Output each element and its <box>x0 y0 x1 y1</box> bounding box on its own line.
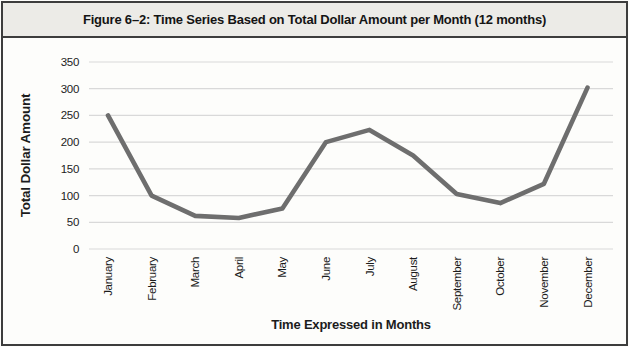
x-tick-label-august: August <box>407 256 419 291</box>
x-tick-label-december: December <box>582 257 594 308</box>
y-tick-label-50: 50 <box>67 216 79 228</box>
x-tick-label-march: March <box>189 257 201 287</box>
figure-title-bar: Figure 6–2: Time Series Based on Total D… <box>3 3 626 38</box>
x-tick-label-june: June <box>320 257 332 281</box>
x-tick-label-february: February <box>146 256 158 300</box>
time-series-line-chart: 050100150200250300350JanuaryFebruaryMarc… <box>3 38 626 340</box>
y-tick-label-200: 200 <box>61 136 79 148</box>
y-tick-label-350: 350 <box>61 56 79 68</box>
x-tick-label-september: September <box>451 257 463 311</box>
y-tick-label-300: 300 <box>61 83 79 95</box>
y-tick-label-0: 0 <box>73 243 79 255</box>
x-tick-label-january: January <box>102 256 114 295</box>
x-tick-label-july: July <box>364 256 376 276</box>
figure-screenshot: Figure 6–2: Time Series Based on Total D… <box>0 0 629 347</box>
x-axis-title: Time Expressed in Months <box>271 317 431 332</box>
figure-title: Figure 6–2: Time Series Based on Total D… <box>83 12 546 27</box>
data-series-line <box>108 88 588 218</box>
chart-area: 050100150200250300350JanuaryFebruaryMarc… <box>3 38 626 340</box>
x-tick-label-may: May <box>276 256 288 277</box>
y-tick-label-150: 150 <box>61 163 79 175</box>
x-tick-label-october: October <box>494 257 506 296</box>
x-tick-label-november: November <box>538 257 550 308</box>
figure-frame: Figure 6–2: Time Series Based on Total D… <box>1 1 628 346</box>
x-tick-label-april: April <box>233 257 245 279</box>
y-tick-label-100: 100 <box>61 190 79 202</box>
y-axis-title: Total Dollar Amount <box>18 93 33 217</box>
y-tick-label-250: 250 <box>61 109 79 121</box>
